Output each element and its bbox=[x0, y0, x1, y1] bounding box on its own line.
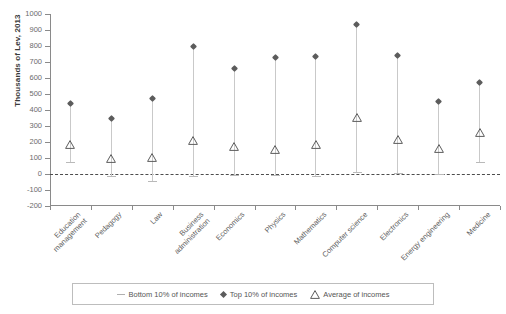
average-marker bbox=[188, 131, 198, 140]
y-tick-label: 100 bbox=[29, 153, 42, 162]
income-range-line bbox=[438, 101, 439, 174]
legend-item[interactable]: Top 10% of incomes bbox=[221, 290, 298, 299]
x-axis-line bbox=[50, 205, 500, 206]
x-axis-label: Education management bbox=[30, 210, 89, 269]
top-decile-marker bbox=[394, 52, 401, 59]
average-marker bbox=[352, 108, 362, 117]
y-tick-label: 600 bbox=[29, 73, 42, 82]
y-tick: 900 bbox=[45, 30, 50, 31]
y-tick-label: 400 bbox=[29, 105, 42, 114]
top-decile-marker bbox=[476, 78, 483, 85]
income-range-line bbox=[152, 99, 153, 181]
income-range-line bbox=[315, 56, 316, 176]
top-decile-marker bbox=[67, 100, 74, 107]
triangle-marker bbox=[310, 290, 319, 298]
bottom-decile-marker bbox=[435, 174, 444, 175]
bottom-decile-marker bbox=[312, 176, 321, 177]
top-decile-marker bbox=[190, 42, 197, 49]
income-range-line bbox=[397, 56, 398, 174]
top-decile-marker bbox=[108, 114, 115, 121]
diamond-marker bbox=[220, 290, 227, 297]
legend-item[interactable]: Average of incomes bbox=[310, 290, 389, 299]
x-axis-labels: Education managementPedagogyLawBusiness … bbox=[50, 208, 500, 278]
y-tick: 400 bbox=[45, 110, 50, 111]
chart-container: Thousands of Lev, 2013 10009008007006005… bbox=[0, 0, 506, 314]
bottom-decile-marker bbox=[394, 173, 403, 174]
y-axis-title: Thousands of Lev, 2013 bbox=[13, 0, 22, 136]
y-tick-label: 900 bbox=[29, 25, 42, 34]
bottom-decile-marker bbox=[189, 176, 198, 177]
income-range-line bbox=[356, 24, 357, 172]
y-tick-label: 500 bbox=[29, 89, 42, 98]
bottom-decile-marker bbox=[148, 181, 157, 182]
dash-marker bbox=[117, 294, 125, 295]
y-tick-label: 0 bbox=[38, 169, 42, 178]
bottom-decile-marker bbox=[271, 175, 280, 176]
y-tick-label: 1000 bbox=[25, 9, 42, 18]
y-tick: 100 bbox=[45, 158, 50, 159]
y-tick-label: 200 bbox=[29, 137, 42, 146]
average-marker bbox=[311, 135, 321, 144]
bottom-decile-marker bbox=[66, 162, 75, 163]
bottom-decile-marker bbox=[476, 162, 485, 163]
top-decile-marker bbox=[312, 53, 319, 60]
y-tick: 200 bbox=[45, 142, 50, 143]
top-decile-marker bbox=[435, 98, 442, 105]
average-marker bbox=[393, 130, 403, 139]
bottom-decile-marker bbox=[107, 176, 116, 177]
y-tick: 300 bbox=[45, 126, 50, 127]
y-tick: -100 bbox=[45, 190, 50, 191]
average-marker bbox=[106, 149, 116, 158]
y-tick-label: 300 bbox=[29, 121, 42, 130]
average-marker bbox=[434, 139, 444, 148]
income-range-line bbox=[234, 68, 235, 174]
income-range-line bbox=[275, 57, 276, 175]
plot-area: 10009008007006005004003002001000-100-200 bbox=[50, 14, 500, 206]
average-marker bbox=[147, 148, 157, 157]
top-decile-marker bbox=[271, 54, 278, 61]
bottom-decile-marker bbox=[230, 175, 239, 176]
average-marker bbox=[270, 140, 280, 149]
income-range-line bbox=[111, 118, 112, 176]
y-axis-line bbox=[50, 14, 51, 206]
top-decile-marker bbox=[353, 21, 360, 28]
bottom-decile-marker bbox=[353, 172, 362, 173]
top-decile-marker bbox=[149, 95, 156, 102]
x-tick bbox=[500, 206, 501, 210]
income-range-line bbox=[193, 46, 194, 176]
legend-label: Top 10% of incomes bbox=[230, 290, 298, 299]
average-marker bbox=[65, 135, 75, 144]
y-tick-label: 700 bbox=[29, 57, 42, 66]
legend-label: Bottom 10% of incomes bbox=[129, 290, 208, 299]
y-tick: 800 bbox=[45, 46, 50, 47]
top-decile-marker bbox=[231, 65, 238, 72]
average-marker bbox=[229, 137, 239, 146]
legend-item[interactable]: Bottom 10% of incomes bbox=[117, 290, 208, 299]
y-tick: 600 bbox=[45, 78, 50, 79]
legend-label: Average of incomes bbox=[323, 290, 389, 299]
y-tick: 700 bbox=[45, 62, 50, 63]
y-tick: 500 bbox=[45, 94, 50, 95]
y-tick: 1000 bbox=[45, 14, 50, 15]
chart-legend: Bottom 10% of incomesTop 10% of incomesA… bbox=[72, 283, 434, 305]
income-range-line bbox=[70, 104, 71, 162]
y-tick-label: -100 bbox=[27, 185, 42, 194]
y-tick-label: 800 bbox=[29, 41, 42, 50]
average-marker bbox=[475, 123, 485, 132]
y-tick-label: -200 bbox=[27, 201, 42, 210]
